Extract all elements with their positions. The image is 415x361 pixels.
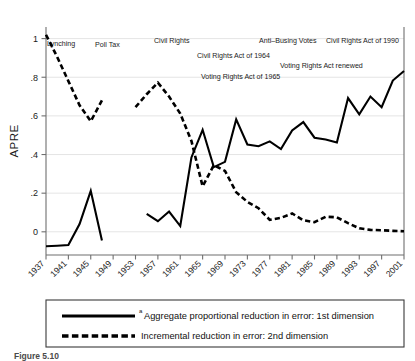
annotation-3: Civil Rights Act of 1964 [197, 52, 270, 60]
annotation-7: Civil Rights Act of 1990 [326, 37, 399, 45]
y-tick-label-5: 1 [33, 34, 38, 44]
annotation-4: Voting Rights Act of 1965 [201, 73, 280, 81]
chart-figure: 0.2.4.6.81 19371941194519491953195719611… [0, 0, 415, 361]
annotation-5: Anti–Busing Votes [259, 37, 317, 45]
annotation-2: Civil Rights [154, 37, 190, 45]
chart-svg: 0.2.4.6.81 19371941194519491953195719611… [0, 0, 415, 361]
y-tick-label-3: .6 [30, 111, 38, 121]
legend-label-0: Aggregate proportional reduction in erro… [144, 311, 374, 321]
y-tick-label-0: 0 [33, 227, 38, 237]
y-tick-label-4: .8 [30, 73, 38, 83]
annotation-6: Voting Rights Act renewed [280, 62, 363, 70]
legend-label-1: Incremental reduction in error: 2nd dime… [141, 331, 328, 341]
y-tick-label-1: .2 [30, 188, 38, 198]
y-axis-title: APRE [8, 125, 20, 158]
chart-legend: aAggregate proportional reduction in err… [46, 300, 404, 347]
figure-caption: Figure 5.10 [14, 351, 59, 361]
y-tick-label-2: .4 [30, 150, 38, 160]
annotation-1: Poll Tax [95, 41, 120, 49]
